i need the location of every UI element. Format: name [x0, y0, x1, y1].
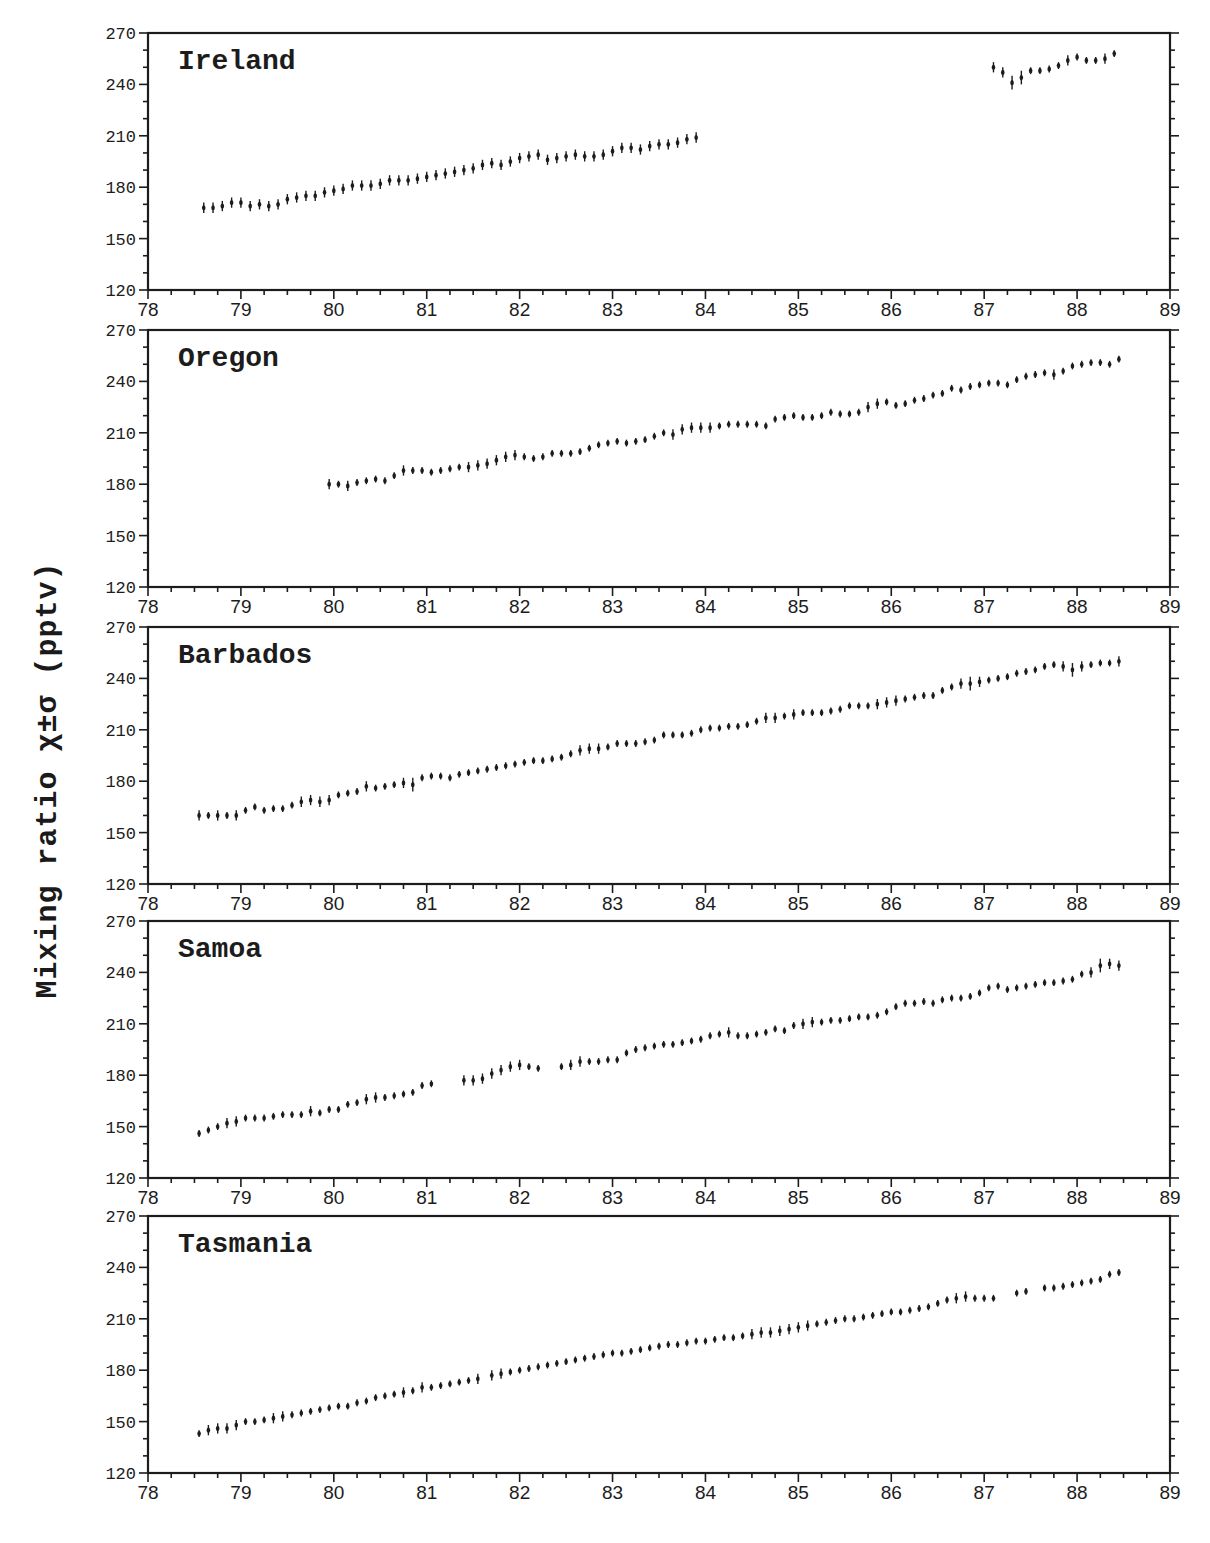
plot-frame: [148, 330, 1170, 587]
x-tick-label: 85: [788, 1482, 809, 1503]
panel-barbados: 1201501802102402707879808182838485868788…: [105, 619, 1180, 914]
y-tick-label: 270: [105, 913, 136, 932]
chart-panels: 1201501802102402707879808182838485868788…: [0, 0, 1210, 1543]
x-tick-label: 80: [323, 893, 344, 914]
x-tick-label: 88: [1067, 299, 1088, 320]
chart-figure: Mixing ratio χ±σ (pptv) 1201501802102402…: [0, 0, 1210, 1543]
x-tick-label: 80: [323, 1482, 344, 1503]
x-tick-label: 86: [881, 1482, 902, 1503]
x-tick-label: 79: [230, 1482, 251, 1503]
x-tick-label: 82: [509, 1482, 530, 1503]
y-tick-label: 150: [105, 825, 136, 844]
x-tick-label: 79: [230, 299, 251, 320]
y-tick-label: 120: [105, 1170, 136, 1189]
y-tick-label: 240: [105, 1259, 136, 1278]
y-tick-label: 120: [105, 282, 136, 301]
panel-title: Ireland: [178, 46, 296, 77]
data-series: [327, 356, 1120, 491]
y-tick-label: 120: [105, 876, 136, 895]
y-tick-label: 210: [105, 128, 136, 147]
x-tick-label: 83: [602, 299, 623, 320]
x-tick-label: 80: [323, 1187, 344, 1208]
x-tick-label: 80: [323, 299, 344, 320]
x-tick-label: 81: [416, 299, 437, 320]
x-tick-label: 84: [695, 299, 717, 320]
y-tick-label: 270: [105, 1208, 136, 1227]
x-tick-label: 81: [416, 596, 437, 617]
x-tick-label: 83: [602, 596, 623, 617]
x-tick-label: 84: [695, 1482, 717, 1503]
x-tick-label: 78: [137, 1482, 158, 1503]
x-tick-label: 79: [230, 596, 251, 617]
y-tick-label: 150: [105, 1414, 136, 1433]
x-tick-label: 78: [137, 893, 158, 914]
x-tick-label: 83: [602, 1482, 623, 1503]
y-tick-label: 180: [105, 773, 136, 792]
plot-frame: [148, 33, 1170, 290]
x-tick-label: 88: [1067, 1187, 1088, 1208]
x-tick-label: 78: [137, 1187, 158, 1208]
x-tick-label: 86: [881, 596, 902, 617]
x-tick-label: 88: [1067, 1482, 1088, 1503]
data-series: [197, 959, 1120, 1137]
x-tick-label: 89: [1159, 1187, 1180, 1208]
x-tick-label: 81: [416, 893, 437, 914]
y-tick-label: 180: [105, 476, 136, 495]
x-tick-label: 81: [416, 1187, 437, 1208]
data-series: [197, 1269, 1120, 1437]
panel-ireland: 1201501802102402707879808182838485868788…: [105, 25, 1180, 320]
data-series: [197, 656, 1120, 820]
y-tick-label: 150: [105, 231, 136, 250]
panel-title: Barbados: [178, 640, 312, 671]
y-tick-label: 240: [105, 373, 136, 392]
data-series: [202, 50, 1116, 213]
x-tick-label: 89: [1159, 893, 1180, 914]
y-tick-label: 240: [105, 670, 136, 689]
plot-frame: [148, 921, 1170, 1178]
x-tick-label: 85: [788, 893, 809, 914]
y-tick-label: 120: [105, 1465, 136, 1484]
x-tick-label: 86: [881, 299, 902, 320]
x-tick-label: 87: [974, 893, 995, 914]
x-tick-label: 82: [509, 596, 530, 617]
x-tick-label: 78: [137, 299, 158, 320]
x-tick-label: 88: [1067, 893, 1088, 914]
x-tick-label: 82: [509, 299, 530, 320]
y-tick-label: 180: [105, 179, 136, 198]
x-tick-label: 87: [974, 299, 995, 320]
x-tick-label: 89: [1159, 596, 1180, 617]
y-tick-label: 240: [105, 76, 136, 95]
panel-title: Tasmania: [178, 1229, 313, 1260]
x-tick-label: 88: [1067, 596, 1088, 617]
x-tick-label: 83: [602, 893, 623, 914]
x-tick-label: 84: [695, 596, 717, 617]
y-tick-label: 240: [105, 964, 136, 983]
y-tick-label: 120: [105, 579, 136, 598]
x-tick-label: 89: [1159, 299, 1180, 320]
y-tick-label: 210: [105, 722, 136, 741]
x-tick-label: 82: [509, 893, 530, 914]
panel-oregon: 1201501802102402707879808182838485868788…: [105, 322, 1180, 617]
panel-title: Samoa: [178, 934, 262, 965]
y-tick-label: 270: [105, 322, 136, 341]
panel-title: Oregon: [178, 343, 279, 374]
x-tick-label: 87: [974, 1482, 995, 1503]
x-tick-label: 78: [137, 596, 158, 617]
x-tick-label: 81: [416, 1482, 437, 1503]
y-tick-label: 150: [105, 1119, 136, 1138]
x-tick-label: 84: [695, 1187, 717, 1208]
x-tick-label: 89: [1159, 1482, 1180, 1503]
x-tick-label: 85: [788, 299, 809, 320]
y-tick-label: 180: [105, 1362, 136, 1381]
x-tick-label: 85: [788, 1187, 809, 1208]
x-tick-label: 83: [602, 1187, 623, 1208]
y-tick-label: 270: [105, 25, 136, 44]
x-tick-label: 86: [881, 893, 902, 914]
x-tick-label: 87: [974, 596, 995, 617]
y-tick-label: 210: [105, 425, 136, 444]
x-tick-label: 80: [323, 596, 344, 617]
x-tick-label: 87: [974, 1187, 995, 1208]
panel-tasmania: 1201501802102402707879808182838485868788…: [105, 1208, 1180, 1503]
x-tick-label: 86: [881, 1187, 902, 1208]
panel-samoa: 1201501802102402707879808182838485868788…: [105, 913, 1180, 1208]
